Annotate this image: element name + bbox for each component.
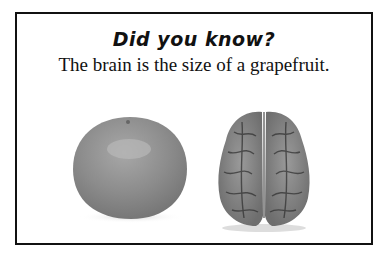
grapefruit-image: [71, 113, 189, 223]
brain-image: [214, 108, 314, 232]
fact-card: Did you know? The brain is the size of a…: [15, 12, 373, 245]
fact-text: The brain is the size of a grapefruit.: [17, 54, 371, 76]
card-title: Did you know?: [17, 28, 371, 50]
